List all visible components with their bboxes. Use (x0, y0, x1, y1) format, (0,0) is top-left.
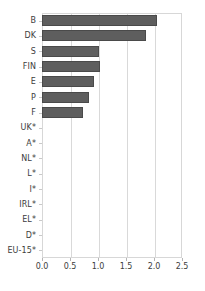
y-axis-tick (39, 113, 42, 114)
y-axis-tick (39, 143, 42, 144)
y-axis-labels: BDKSFINEPFUK*A*NL*L*I*IRL*EL*D*EU-15* (0, 13, 39, 258)
y-axis-label-row: IRL* (0, 197, 39, 212)
horizontal-bar-chart: BDKSFINEPFUK*A*NL*L*I*IRL*EL*D*EU-15* 0.… (0, 0, 205, 291)
y-axis-tick (39, 158, 42, 159)
y-axis-label-row: A* (0, 136, 39, 151)
y-axis-label-row: FIN (0, 59, 39, 74)
y-axis-label: UK* (21, 123, 36, 132)
bar-row (42, 44, 182, 59)
y-axis-label: EU-15* (7, 246, 36, 255)
x-axis-tick (42, 258, 43, 261)
bar-fin (42, 61, 100, 72)
bar-row (42, 105, 182, 120)
y-axis-label: DK (24, 31, 36, 40)
y-axis-label: FIN (23, 62, 36, 71)
y-axis-label: A* (26, 139, 36, 148)
bar-e (42, 76, 94, 87)
bar-row (42, 212, 182, 227)
y-axis-tick (39, 204, 42, 205)
bar-row (42, 74, 182, 89)
bar-row (42, 136, 182, 151)
bar-row (42, 59, 182, 74)
y-axis-label: I* (29, 185, 36, 194)
bar-dk (42, 30, 146, 41)
y-axis-label-row: NL* (0, 151, 39, 166)
x-axis-tick (154, 258, 155, 261)
y-axis-label-row: D* (0, 227, 39, 242)
bar-b (42, 15, 157, 26)
y-axis-label: D* (26, 231, 36, 240)
y-axis-tick (39, 67, 42, 68)
y-axis-label-row: I* (0, 181, 39, 196)
bar-row (42, 227, 182, 242)
bar-row (42, 243, 182, 258)
x-axis-tick (98, 258, 99, 261)
bars-layer (42, 13, 182, 258)
y-axis-tick (39, 36, 42, 37)
y-axis-label-row: S (0, 44, 39, 59)
y-axis-tick (39, 97, 42, 98)
x-axis-tick-label: 0.0 (36, 262, 49, 272)
bar-row (42, 13, 182, 28)
y-axis-label-row: E (0, 74, 39, 89)
y-axis-tick (39, 235, 42, 236)
y-axis-tick (39, 51, 42, 52)
y-axis-label-row: DK (0, 28, 39, 43)
y-axis-tick (39, 174, 42, 175)
bar-row (42, 28, 182, 43)
x-axis-tick-label: 1.5 (120, 262, 133, 272)
y-axis-label: P (31, 93, 36, 102)
y-axis-label-row: B (0, 13, 39, 28)
y-axis-tick (39, 21, 42, 22)
bar-row (42, 151, 182, 166)
y-axis-tick (39, 82, 42, 83)
y-axis-label: B (30, 16, 36, 25)
bar-p (42, 92, 89, 103)
y-axis-label-row: UK* (0, 120, 39, 135)
bar-row (42, 120, 182, 135)
bar-row (42, 90, 182, 105)
y-axis-label: EL* (22, 215, 36, 224)
y-axis-tick (39, 220, 42, 221)
y-axis-label: NL* (21, 154, 36, 163)
y-axis-label-row: EU-15* (0, 243, 39, 258)
y-axis-label: IRL* (19, 200, 36, 209)
x-axis: 0.00.51.01.52.02.5 (42, 258, 182, 280)
bar-s (42, 46, 99, 57)
x-axis-tick (182, 258, 183, 261)
bar-row (42, 197, 182, 212)
bar-f (42, 107, 83, 118)
y-axis-label-row: P (0, 90, 39, 105)
y-axis-label-row: F (0, 105, 39, 120)
x-axis-tick-label: 2.5 (176, 262, 189, 272)
y-axis-label: L* (27, 169, 36, 178)
bar-row (42, 181, 182, 196)
y-axis-label-row: EL* (0, 212, 39, 227)
x-axis-tick-label: 2.0 (148, 262, 161, 272)
y-axis-label: F (31, 108, 36, 117)
bar-row (42, 166, 182, 181)
y-axis-tick (39, 128, 42, 129)
y-axis-tick (39, 250, 42, 251)
x-axis-tick (126, 258, 127, 261)
y-axis-tick (39, 189, 42, 190)
x-axis-tick (70, 258, 71, 261)
y-axis-label: E (31, 77, 36, 86)
y-axis-label: S (31, 47, 36, 56)
x-axis-tick-label: 0.5 (64, 262, 77, 272)
x-axis-tick-label: 1.0 (92, 262, 105, 272)
y-axis-label-row: L* (0, 166, 39, 181)
